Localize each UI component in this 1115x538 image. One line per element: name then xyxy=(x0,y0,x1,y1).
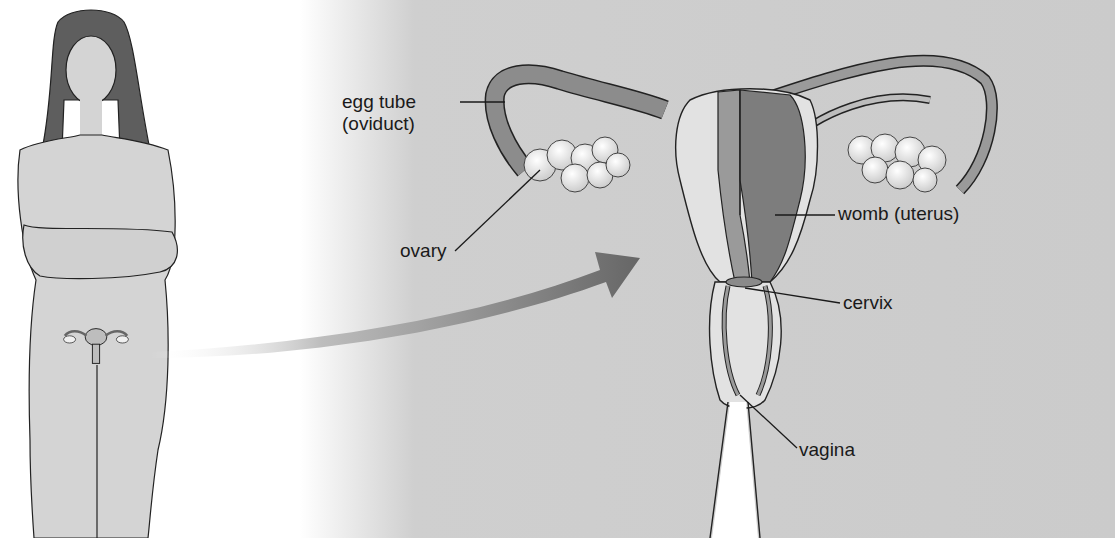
diagram-canvas: egg tube (oviduct) ovary womb (uterus) c… xyxy=(0,0,1115,538)
diagram-artwork xyxy=(0,0,1115,538)
uterus xyxy=(676,89,818,409)
label-uterus: womb (uterus) xyxy=(838,203,959,225)
right-ovary xyxy=(848,134,946,192)
left-ovary xyxy=(524,137,630,192)
label-oviduct: egg tube (oviduct) xyxy=(342,91,416,135)
label-cervix: cervix xyxy=(843,292,893,314)
label-oviduct-line2: (oviduct) xyxy=(342,113,416,135)
label-ovary: ovary xyxy=(400,240,446,262)
figure-silhouette xyxy=(18,10,177,538)
label-vagina: vagina xyxy=(799,439,855,461)
label-oviduct-line1: egg tube xyxy=(342,91,416,113)
zoom-arrow xyxy=(150,252,640,358)
